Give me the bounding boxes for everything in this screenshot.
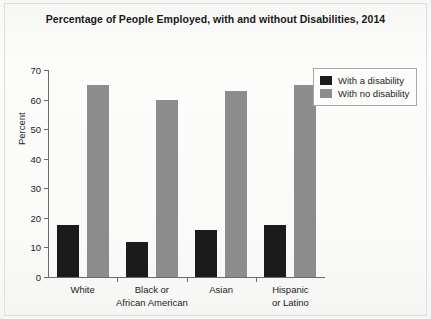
bar [87,85,109,277]
legend-swatch-icon-no-disability [320,89,332,98]
x-axis-category-label: Black orAfrican American [116,284,188,309]
y-axis-tick-label: 20 [30,212,41,223]
y-axis-tick [44,129,48,130]
x-axis-category-label: Asian [209,284,233,297]
y-axis-tick-label: 10 [30,242,41,253]
x-axis-tick [117,277,118,282]
y-axis-tick [44,218,48,219]
x-axis-tick [256,277,257,282]
bar [57,225,79,277]
chart-figure: Percentage of People Employed, with and … [0,0,431,319]
bar [294,85,316,277]
y-axis-tick [44,247,48,248]
y-axis-tick [44,70,48,71]
y-axis-tick-label: 70 [30,65,41,76]
bar [264,225,286,277]
y-axis-tick-label: 0 [36,272,41,283]
x-axis-category-label: Hispanicor Latino [272,284,309,309]
y-axis-tick [44,100,48,101]
legend-item-with-no-disability: With no disability [320,87,409,100]
bar [195,230,217,277]
y-axis-line [48,70,49,277]
legend-item-with-a-disability: With a disability [320,74,409,87]
bar [156,100,178,277]
y-axis-title: Percent [16,112,27,145]
chart-legend: With a disability With no disability [313,68,417,106]
chart-title: Percentage of People Employed, with and … [0,13,431,25]
bar [225,91,247,277]
legend-label-no-disability: With no disability [338,88,409,99]
y-axis-tick-label: 50 [30,124,41,135]
legend-swatch-icon-disability [320,76,332,85]
y-axis-tick [44,277,48,278]
x-axis-category-label: White [70,284,94,297]
y-axis-tick-label: 60 [30,94,41,105]
bar [126,242,148,277]
legend-label-disability: With a disability [338,75,404,86]
y-axis-tick [44,159,48,160]
plot-area: 010203040506070 [48,70,325,277]
x-axis-tick [187,277,188,282]
y-axis-tick [44,188,48,189]
y-axis-tick-label: 40 [30,153,41,164]
y-axis-tick-label: 30 [30,183,41,194]
